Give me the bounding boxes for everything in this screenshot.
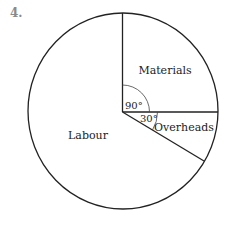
label-labour: Labour: [68, 129, 109, 142]
label-materials: Materials: [138, 64, 192, 77]
pie-chart: Materials Overheads Labour 90° 30°: [0, 0, 229, 228]
overheads-labour-boundary: [123, 112, 205, 161]
label-angle-90: 90°: [125, 100, 143, 111]
label-angle-30: 30°: [140, 113, 158, 124]
label-overheads: Overheads: [154, 121, 214, 134]
